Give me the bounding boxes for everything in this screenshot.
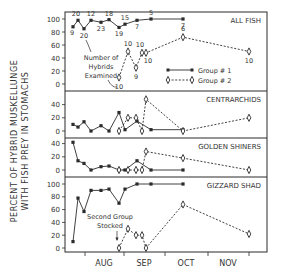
sample-size-label: 6: [181, 25, 185, 33]
group1-marker: [149, 17, 152, 20]
y-tick-label: 60: [51, 206, 60, 214]
group1-marker: [82, 27, 85, 30]
group1-marker: [71, 240, 74, 243]
legend-group2-marker: [166, 76, 170, 83]
group2-marker: [247, 114, 251, 121]
group1-marker: [117, 26, 120, 29]
group1-marker: [76, 159, 79, 162]
group1-marker: [181, 17, 184, 20]
panel-title-centrarchids: CENTRARCHIDS: [206, 96, 261, 104]
group2-marker: [126, 166, 130, 173]
y-tick-label: 40: [51, 55, 60, 63]
group2-marker: [144, 148, 148, 155]
y-tick-label: 40: [51, 140, 60, 148]
group1-marker: [149, 168, 152, 171]
y-tick-label: 80: [51, 29, 60, 37]
group2-marker: [117, 127, 121, 134]
y-tick-label: 0: [56, 245, 60, 253]
group1-marker: [99, 21, 102, 24]
group1-marker: [123, 188, 126, 191]
sample-size-label: 10: [136, 41, 144, 49]
x-month-label-nov: NOV: [219, 259, 237, 268]
group2-marker: [247, 230, 251, 237]
y-tick-label: 20: [51, 68, 60, 76]
group1-marker: [117, 202, 120, 205]
group1-marker: [82, 162, 85, 165]
sample-size-label: 20: [80, 32, 88, 40]
sample-size-label: 10: [124, 40, 132, 48]
x-month-label-sep: SEP: [137, 259, 152, 268]
sample-size-label: 10: [245, 57, 253, 65]
sample-size-label: 5: [149, 9, 153, 17]
y-tick-label: 80: [51, 193, 60, 201]
group1-marker: [71, 141, 74, 144]
group1-marker: [149, 182, 152, 185]
group1-marker: [82, 210, 85, 213]
annotation-stocked-line2: Stocked: [97, 222, 123, 230]
group2-marker: [140, 166, 144, 173]
group2-marker: [144, 49, 148, 56]
legend-group2-label: Group # 2: [198, 77, 232, 85]
y-tick-label: 20: [51, 153, 60, 161]
group1-marker: [89, 19, 92, 22]
y-tick-label: 100: [47, 16, 60, 24]
y-tick-label: 0: [56, 81, 60, 89]
group1-marker: [99, 189, 102, 192]
annotation-arrow: [86, 40, 91, 52]
group1-marker: [135, 182, 138, 185]
group2-marker: [134, 166, 138, 173]
legend-group2-marker: [190, 76, 194, 83]
annotation-hybrids-line1: Number of: [84, 54, 119, 62]
sample-size-label: 10: [115, 83, 123, 91]
group1-marker: [123, 128, 126, 131]
chart-figure: 020406080100ALL FISH92020122318191575710…: [0, 0, 281, 280]
group1-marker: [135, 159, 138, 162]
x-month-label-oct: OCT: [178, 259, 195, 268]
sample-size-label: 23: [97, 25, 105, 33]
panel-title-golden-shiners: GOLDEN SHINERS: [198, 143, 261, 151]
y-tick-label: 20: [51, 114, 60, 122]
group2-marker: [117, 166, 121, 173]
legend-group1-marker: [191, 69, 194, 72]
group2-marker: [140, 232, 144, 239]
group1-marker: [76, 125, 79, 128]
group1-marker: [181, 168, 184, 171]
group1-marker: [107, 18, 110, 21]
annotation-stocked-line1: Second Group: [87, 213, 133, 221]
sample-size-label: 10: [144, 57, 152, 65]
group1-marker: [99, 124, 102, 127]
group1-marker: [89, 168, 92, 171]
y-tick-label: 20: [51, 232, 60, 240]
group1-marker: [181, 182, 184, 185]
group2-marker: [181, 34, 185, 41]
group2-marker: [247, 48, 251, 55]
group2-marker: [140, 127, 144, 134]
group2-marker: [117, 74, 121, 81]
annotation-hybrids-line3: Examined: [85, 72, 117, 80]
group1-marker: [107, 164, 110, 167]
group1-marker: [89, 189, 92, 192]
legend-group1-marker: [167, 69, 170, 72]
annotation-hybrids-line2: Hybrids: [89, 63, 114, 71]
group1-marker: [123, 23, 126, 26]
sample-size-label: 19: [115, 30, 123, 38]
group1-marker: [107, 188, 110, 191]
group2-marker: [181, 155, 185, 162]
series-group2-line: [119, 99, 249, 131]
group2-marker: [144, 96, 148, 103]
y-tick-label: 40: [51, 219, 60, 227]
sample-size-label: 20: [72, 10, 80, 18]
group2-marker: [126, 114, 130, 121]
group2-marker: [181, 201, 185, 208]
series-group2-line: [119, 205, 249, 249]
annotation-arrowhead: [116, 238, 119, 242]
y-tick-label: 0: [56, 167, 60, 175]
sample-size-label: 15: [121, 14, 129, 22]
group1-marker: [99, 165, 102, 168]
y-tick-label: 100: [47, 181, 60, 189]
group2-marker: [247, 166, 251, 173]
group1-marker: [107, 129, 110, 132]
y-tick-label: 60: [51, 42, 60, 50]
y-tick-label: 40: [51, 101, 60, 109]
group1-marker: [71, 123, 74, 126]
